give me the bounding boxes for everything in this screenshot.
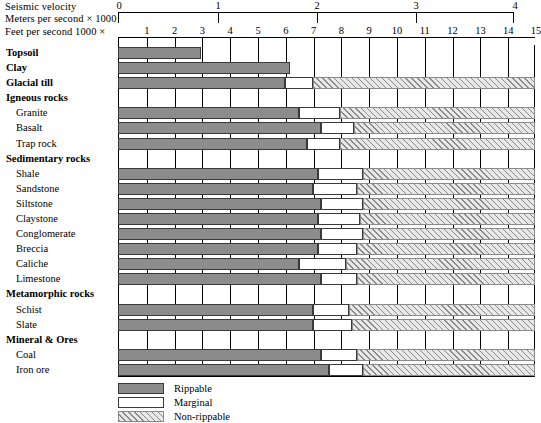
chart-row: Shale: [0, 166, 535, 181]
bar-segment-marginal: [307, 138, 340, 150]
imperial-axis-tick-label: 3: [200, 25, 205, 37]
metric-axis-tick-label: 3: [413, 0, 418, 12]
metric-axis: 01234: [118, 12, 514, 23]
bar-segment-marginal: [329, 364, 362, 376]
bar-segment-rippable: [118, 228, 321, 240]
imperial-axis-tick-label: 6: [283, 25, 288, 37]
chart-row: Coal: [0, 347, 535, 362]
bar-track: [118, 364, 535, 376]
bar-segment-nonrippable: [340, 138, 535, 150]
chart-row: Trap rock: [0, 136, 535, 151]
bar-segment-rippable: [118, 62, 290, 74]
bar-track: [118, 228, 535, 240]
bar-track: [118, 273, 535, 285]
bar-segment-nonrippable: [313, 77, 535, 89]
imperial-axis-tick: [369, 38, 370, 45]
legend-label-nonrippable: Non-rippable: [174, 410, 230, 423]
imperial-axis-tick-label: 13: [475, 25, 486, 37]
legend-item-nonrippable: Non-rippable: [118, 411, 378, 423]
row-label-sedimentary-rocks: Sedimentary rocks: [0, 152, 120, 166]
chart-row: Sedimentary rocks: [0, 151, 535, 166]
bar-track: [118, 198, 535, 210]
imperial-axis-tick: [230, 38, 231, 45]
metric-axis-tick: [317, 13, 318, 23]
chart-row: Limestone: [0, 271, 535, 286]
bar-segment-rippable: [118, 213, 318, 225]
bar-segment-nonrippable: [354, 122, 535, 134]
chart-row: Granite: [0, 105, 535, 120]
imperial-axis-tick-label: 14: [503, 25, 514, 37]
bar-track: [118, 153, 535, 165]
bar-segment-rippable: [118, 273, 321, 285]
row-label-sandstone: Sandstone: [0, 182, 130, 196]
metric-axis-tick-label: 2: [314, 0, 319, 12]
imperial-axis-tick-label: 5: [255, 25, 260, 37]
bar-segment-nonrippable: [360, 213, 535, 225]
bar-segment-marginal: [321, 122, 354, 134]
row-label-slate: Slate: [0, 318, 130, 332]
row-label-granite: Granite: [0, 106, 130, 120]
bar-segment-rippable: [118, 198, 321, 210]
bar-track: [118, 77, 535, 89]
bar-segment-nonrippable: [346, 258, 535, 270]
bar-track: [118, 304, 535, 316]
imperial-axis-tick: [175, 38, 176, 45]
row-label-igneous-rocks: Igneous rocks: [0, 91, 120, 105]
bar-track: [118, 258, 535, 270]
metric-axis-tick: [416, 13, 417, 23]
bar-track: [118, 349, 535, 361]
bar-segment-marginal: [321, 349, 357, 361]
imperial-axis-tick-label: 4: [228, 25, 233, 37]
bar-segment-rippable: [118, 304, 313, 316]
bar-segment-nonrippable: [357, 349, 535, 361]
bar-segment-nonrippable: [357, 183, 535, 195]
bar-segment-marginal: [313, 304, 349, 316]
row-label-metamorphic-rocks: Metamorphic rocks: [0, 287, 120, 301]
imperial-axis-tick: [397, 38, 398, 45]
chart-row: Sandstone: [0, 181, 535, 196]
legend-item-marginal: Marginal: [118, 397, 378, 410]
bar-segment-rippable: [118, 319, 313, 331]
bar-segment-nonrippable: [349, 304, 535, 316]
bar-track: [118, 168, 535, 180]
chart-row: Clay: [0, 60, 535, 75]
imperial-axis-tick: [453, 38, 454, 45]
axis-caption-seismic-velocity: Seismic velocity: [5, 1, 76, 13]
legend-swatch-nonrippable: [118, 411, 164, 422]
legend-label-rippable: Rippable: [174, 382, 212, 395]
chart-legend: RippableMarginalNon-rippable: [118, 383, 378, 423]
bar-track: [118, 62, 535, 74]
bar-segment-rippable: [118, 349, 321, 361]
imperial-axis-tick-label: 12: [447, 25, 458, 37]
metric-axis-tick-label: 4: [512, 0, 517, 12]
imperial-axis-tick-label: 2: [172, 25, 177, 37]
imperial-axis-tick: [341, 38, 342, 45]
bar-track: [118, 213, 535, 225]
bar-segment-rippable: [118, 168, 318, 180]
imperial-axis-tick-label: 10: [392, 25, 403, 37]
chart-row: Conglomerate: [0, 226, 535, 241]
bar-segment-nonrippable: [357, 243, 535, 255]
bar-segment-rippable: [118, 107, 299, 119]
bar-segment-marginal: [321, 198, 363, 210]
axis-caption-meters-per-second: Meters per second × 1000: [5, 13, 117, 25]
bar-segment-marginal: [321, 273, 357, 285]
bar-track: [118, 334, 535, 346]
imperial-axis-tick-label: 1: [144, 25, 149, 37]
legend-label-marginal: Marginal: [174, 396, 212, 409]
chart-row: Caliche: [0, 256, 535, 271]
row-label-clay: Clay: [0, 61, 120, 75]
chart-row: Siltstone: [0, 196, 535, 211]
imperial-axis-tick: [286, 38, 287, 45]
bar-segment-rippable: [118, 183, 313, 195]
row-label-trap-rock: Trap rock: [0, 137, 130, 151]
imperial-axis-tick: [202, 38, 203, 45]
bar-track: [118, 92, 535, 104]
bar-track: [118, 319, 535, 331]
bar-segment-rippable: [118, 364, 329, 376]
axis-caption-feet-per-second: Feet per second 1000 ×: [5, 26, 105, 38]
chart-row: Breccia: [0, 241, 535, 256]
chart-rows: TopsoilClayGlacial tillIgneous rocksGran…: [0, 45, 535, 377]
chart-row: Glacial till: [0, 75, 535, 90]
row-label-caliche: Caliche: [0, 257, 130, 271]
